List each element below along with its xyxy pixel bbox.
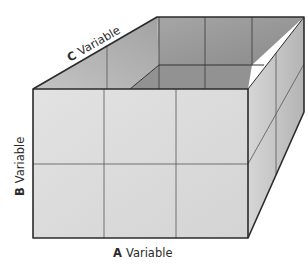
front-face — [33, 89, 248, 238]
b-variable-label: BVariable — [13, 137, 27, 196]
a-variable-label: AVariable — [113, 246, 172, 260]
factorial-cube-diagram: CVariable BVariable AVariable — [0, 0, 308, 273]
